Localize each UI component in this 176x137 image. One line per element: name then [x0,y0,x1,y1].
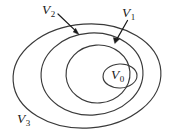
region-label-v3-subscript: 3 [26,118,31,128]
region-label-v3: V3 [17,112,30,126]
region-label-v2-base: V [42,2,50,17]
region-label-v0-subscript: 0 [120,74,125,84]
region-label-v0: V0 [111,68,124,82]
leader-arrow-v2 [58,14,79,35]
region-label-v1-base: V [122,5,130,20]
region-label-v0-base: V [111,67,119,82]
region-label-v2: V2 [42,3,55,17]
region-label-v1-subscript: 1 [131,12,136,22]
region-label-v1: V1 [122,6,135,20]
leader-arrow-v1 [113,21,127,44]
leader-arrow-v2-shaft [58,14,76,31]
region-label-v3-base: V [17,111,25,126]
region-label-v2-subscript: 2 [51,9,56,19]
figure-canvas: V0 V1 V2 V3 [0,0,176,137]
region-ellipse-v3 [10,19,165,133]
